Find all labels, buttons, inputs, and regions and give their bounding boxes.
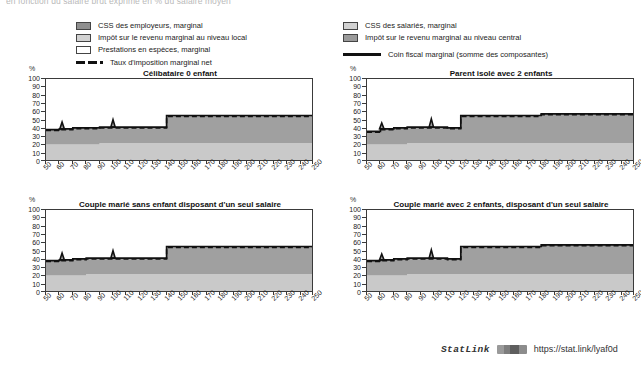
legend-item-employer-ssc: CSS des employeurs, marginal xyxy=(76,20,247,32)
area-band xyxy=(367,274,634,292)
legend-label-local-income-tax: Impôt sur le revenu marginal au niveau l… xyxy=(98,34,247,42)
legend-label-employer-ssc: CSS des employeurs, marginal xyxy=(98,22,203,30)
x-axis-tick-label: 50 xyxy=(363,291,373,301)
y-axis-tick-label: 0 xyxy=(0,158,40,165)
y-axis-tick-label: 100 xyxy=(0,75,40,82)
spike-marker xyxy=(380,254,384,260)
x-axis: 5060708090100110120130140150160170180190… xyxy=(45,292,313,326)
area-band xyxy=(46,247,313,276)
legend-label-marginal-tax-wedge: Coin fiscal marginal (somme des composan… xyxy=(388,51,548,59)
y-axis-tick-label: 20 xyxy=(321,272,361,279)
plot-area xyxy=(45,78,313,161)
spike-marker xyxy=(111,120,115,127)
y-axis-tick-label: 40 xyxy=(0,255,40,262)
x-axis-tick-label: 60 xyxy=(55,291,65,301)
plot-area xyxy=(366,209,634,292)
swatch-cash-benefits-icon xyxy=(76,46,91,54)
chart-title: Parent isolé avec 2 enfants xyxy=(367,69,635,78)
legend-label-central-income-tax: Impôt sur le revenu marginal au niveau c… xyxy=(365,34,521,42)
spike-marker xyxy=(111,251,115,258)
y-axis-tick-label: 50 xyxy=(321,247,361,254)
x-axis-tick-label: 110 xyxy=(122,289,135,302)
x-axis-tick-label: 110 xyxy=(443,158,456,171)
legend-item-central-income-tax: Impôt sur le revenu marginal au niveau c… xyxy=(343,32,548,44)
y-axis-tick-label: 90 xyxy=(0,83,40,90)
y-axis-tick-label: 90 xyxy=(0,214,40,221)
y-axis-tick-label: 10 xyxy=(0,149,40,156)
x-axis-tick-label: 50 xyxy=(363,160,373,170)
x-axis-tick-label: 50 xyxy=(42,160,52,170)
y-axis-unit-label: % xyxy=(29,196,35,203)
x-axis-tick-label: 70 xyxy=(390,291,400,301)
y-axis-tick-label: 70 xyxy=(321,99,361,106)
y-axis-tick-label: 90 xyxy=(321,83,361,90)
statlink-wordmark: StatLink xyxy=(441,344,490,355)
x-axis-tick-label: 60 xyxy=(55,160,65,170)
x-axis-tick-label: 70 xyxy=(390,160,400,170)
swatch-central-income-tax-icon xyxy=(343,34,358,42)
plot-svg xyxy=(367,210,634,292)
chart-legend: CSS des employeurs, marginal Impôt sur l… xyxy=(60,20,620,68)
y-axis-tick-label: 30 xyxy=(0,264,40,271)
y-axis-tick-label: 30 xyxy=(321,133,361,140)
y-axis-unit-label: % xyxy=(350,196,356,203)
x-axis-tick-label: 90 xyxy=(96,160,106,170)
chart-panel-couple-marie-2-enfants: % Couple marié avec 2 enfants, disposant… xyxy=(321,197,641,328)
solid-line-key-icon xyxy=(343,49,381,60)
y-axis-tick-label: 40 xyxy=(321,255,361,262)
y-axis-tick-label: 100 xyxy=(0,206,40,213)
x-axis-tick-label: 70 xyxy=(69,160,79,170)
chart-panel-parent-isole-2-enfants: % Parent isolé avec 2 enfants 0102030405… xyxy=(321,66,641,197)
x-axis-tick-label: 50 xyxy=(42,291,52,301)
y-axis-tick-label: 60 xyxy=(321,239,361,246)
plot-area xyxy=(45,209,313,292)
y-axis-tick-label: 80 xyxy=(321,222,361,229)
x-axis-tick-label: 110 xyxy=(122,158,135,171)
area-band xyxy=(46,274,313,292)
y-axis-tick-label: 90 xyxy=(321,214,361,221)
y-axis-tick-label: 0 xyxy=(0,289,40,296)
y-axis-tick-label: 20 xyxy=(0,272,40,279)
area-band xyxy=(367,143,634,161)
area-band xyxy=(46,143,313,161)
swatch-employee-ssc-icon xyxy=(343,22,358,30)
chart-panel-couple-marie-sans-enfant: % Couple marié sans enfant disposant d'u… xyxy=(0,197,320,328)
y-axis-tick-label: 50 xyxy=(321,116,361,123)
x-axis: 5060708090100110120130140150160170180190… xyxy=(45,161,313,195)
spike-marker xyxy=(60,122,64,129)
y-axis-tick-label: 10 xyxy=(0,280,40,287)
y-axis-tick-label: 70 xyxy=(0,230,40,237)
x-axis-tick-label: 90 xyxy=(417,291,427,301)
x-axis-tick-label: 110 xyxy=(443,289,456,302)
y-axis-tick-label: 60 xyxy=(0,108,40,115)
x-axis-tick-label: 80 xyxy=(82,291,92,301)
legend-label-cash-benefits: Prestations en espèces, marginal xyxy=(98,46,210,54)
y-axis-tick-label: 60 xyxy=(0,239,40,246)
legend-item-cash-benefits: Prestations en espèces, marginal xyxy=(76,44,247,56)
y-axis-unit-label: % xyxy=(350,65,356,72)
y-axis-tick-label: 100 xyxy=(321,206,361,213)
y-axis-tick-label: 20 xyxy=(0,141,40,148)
x-axis-tick-label: 80 xyxy=(82,160,92,170)
figure-subtitle: en fonction du salaire brut exprimé en %… xyxy=(6,0,426,8)
y-axis-tick-label: 0 xyxy=(321,158,361,165)
chart-title: Couple marié avec 2 enfants, disposant d… xyxy=(367,200,635,209)
x-axis-tick-label: 90 xyxy=(417,160,427,170)
y-axis-tick-label: 70 xyxy=(321,230,361,237)
y-axis-tick-label: 10 xyxy=(321,280,361,287)
y-axis: 0102030405060708090100 xyxy=(0,209,45,292)
plot-area xyxy=(366,78,634,161)
chart-panel-celibataire-0-enfant: % Célibataire 0 enfant 01020304050607080… xyxy=(0,66,320,197)
y-axis-tick-label: 100 xyxy=(321,75,361,82)
spike-marker xyxy=(429,119,433,127)
spike-marker xyxy=(60,253,64,260)
y-axis: 0102030405060708090100 xyxy=(321,78,366,161)
legend-item-employee-ssc: CSS des salariés, marginal xyxy=(343,20,548,32)
y-axis-tick-label: 40 xyxy=(0,124,40,131)
plot-svg xyxy=(46,79,313,161)
statlink-url[interactable]: https://stat.link/lyaf0d xyxy=(534,344,618,354)
y-axis-tick-label: 50 xyxy=(0,247,40,254)
statlink-badge-icon xyxy=(497,345,527,354)
spike-marker xyxy=(380,123,384,129)
statlink: StatLink https://stat.link/lyaf0d xyxy=(441,341,618,357)
